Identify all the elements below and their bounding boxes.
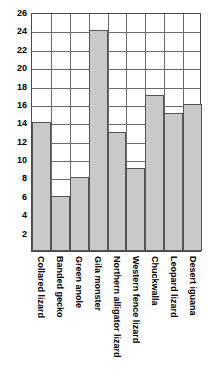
x-axis-tick-label: Northern alligator lizard xyxy=(111,256,120,358)
x-axis-tick-label: Gila monster xyxy=(93,256,102,311)
x-axis-tick-label: Desert iguana xyxy=(187,256,196,316)
y-axis-tick-label: 26 xyxy=(3,9,27,18)
y-axis-tick-label: 8 xyxy=(3,174,27,183)
bar xyxy=(89,30,108,251)
x-axis-tick: Leopard lizard xyxy=(163,254,182,385)
x-axis-tick-label: Leopard lizard xyxy=(168,256,177,318)
y-axis-tick-label: 20 xyxy=(3,64,27,73)
y-axis-tick-label: 2 xyxy=(3,229,27,238)
y-axis-tick-label: 6 xyxy=(3,192,27,201)
x-axis-tick-label: Collared lizard xyxy=(36,256,45,318)
bar xyxy=(126,168,145,251)
y-axis-tick-label: 16 xyxy=(3,100,27,109)
y-axis-tick-label: 10 xyxy=(3,156,27,165)
bar-chart: 2468101214161820222426 Collared lizardBa… xyxy=(0,0,215,385)
y-axis-tick-label: 22 xyxy=(3,45,27,54)
bar xyxy=(51,196,70,251)
x-axis-tick: Chuckwalla xyxy=(144,254,163,385)
x-axis-tick: Gila monster xyxy=(88,254,107,385)
x-axis-tick: Western fence lizard xyxy=(125,254,144,385)
y-axis-tick-label: 14 xyxy=(3,119,27,128)
y-axis-tick-label: 4 xyxy=(3,211,27,220)
x-axis-tick: Desert iguana xyxy=(182,254,201,385)
bar xyxy=(32,122,51,251)
x-axis-tick-label: Green anole xyxy=(74,256,83,308)
bar xyxy=(70,177,89,251)
x-axis: Collared lizardBanded geckoGreen anoleGi… xyxy=(31,254,201,385)
y-axis-tick-label: 24 xyxy=(3,27,27,36)
bar xyxy=(164,113,183,251)
y-axis: 2468101214161820222426 xyxy=(0,0,27,385)
x-axis-tick-label: Chuckwalla xyxy=(149,256,158,306)
x-axis-tick-label: Banded gecko xyxy=(55,256,64,318)
bar xyxy=(183,104,202,251)
x-axis-tick: Collared lizard xyxy=(31,254,50,385)
x-axis-tick: Green anole xyxy=(69,254,88,385)
bar xyxy=(145,95,164,251)
bars-group xyxy=(32,14,200,251)
bar xyxy=(108,132,127,252)
x-axis-tick: Northern alligator lizard xyxy=(107,254,126,385)
y-axis-tick-label: 18 xyxy=(3,82,27,91)
y-axis-tick-label: 12 xyxy=(3,137,27,146)
x-axis-tick-label: Western fence lizard xyxy=(130,256,139,343)
x-axis-tick: Banded gecko xyxy=(50,254,69,385)
plot-area xyxy=(31,13,201,252)
